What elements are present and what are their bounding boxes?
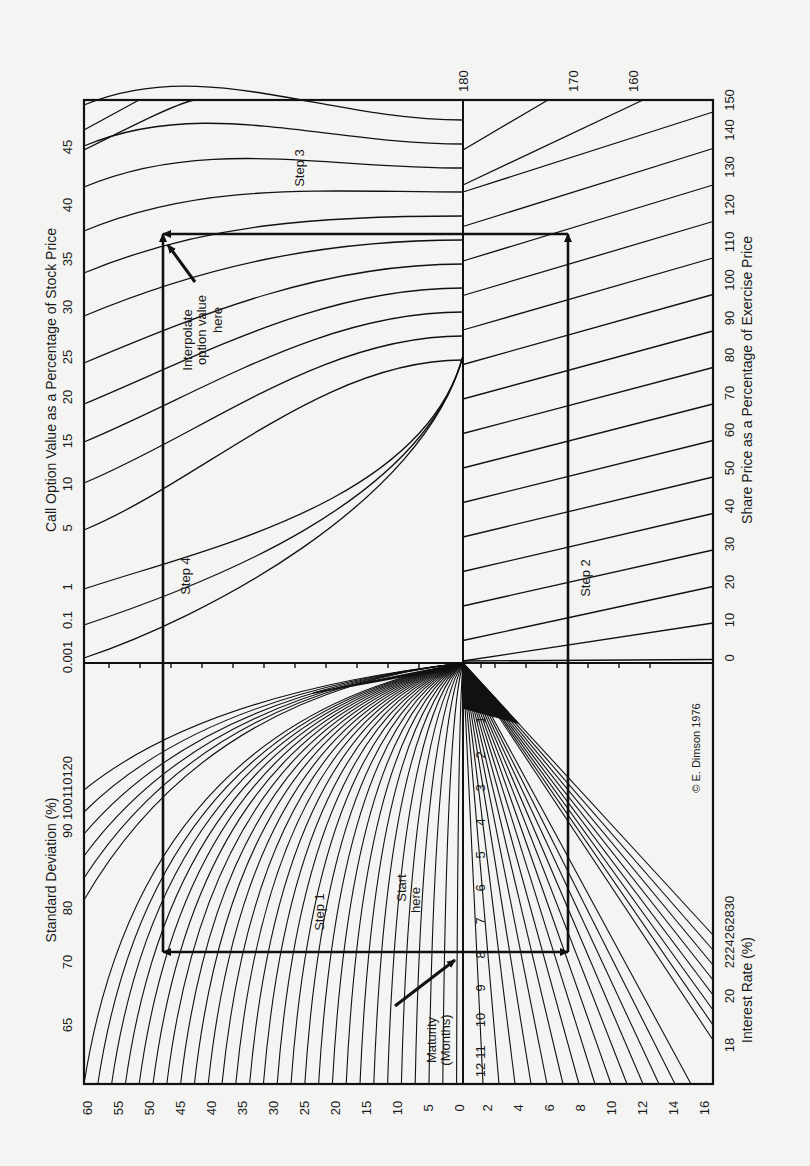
- curve: [463, 441, 713, 503]
- curve: [463, 185, 713, 261]
- share-price-tick: 10: [722, 613, 737, 627]
- curve: [84, 356, 463, 658]
- share-price-top-tick: 170: [566, 70, 581, 92]
- curve: [463, 258, 713, 330]
- share-price-tick: 80: [722, 348, 737, 362]
- call-option-tick: 40: [60, 198, 75, 212]
- start-label: Start: [394, 874, 409, 902]
- curve: [84, 360, 463, 530]
- call-option-tick: 15: [60, 434, 75, 448]
- curve: [84, 240, 463, 316]
- maturity-tick: 4: [473, 818, 488, 825]
- call-option-axis-label: Call Option Value as a Percentage of Sto…: [43, 228, 59, 532]
- curve: [463, 663, 643, 1084]
- step2-label: Step 2: [578, 559, 593, 597]
- start-label: here: [408, 887, 423, 913]
- curve: [84, 86, 463, 120]
- call-option-tick: 1: [60, 583, 75, 590]
- bottom-scale-tick: 40: [204, 1101, 219, 1115]
- sd-axis-label: Standard Deviation (%): [43, 798, 59, 943]
- share-price-tick: 150: [722, 89, 737, 111]
- bottom-scale-tick: 35: [235, 1101, 250, 1115]
- step4-label: Step 4: [178, 557, 193, 595]
- interpolate-label: Interpolate: [180, 309, 195, 370]
- share-price-tick: 20: [722, 575, 737, 589]
- share-price-tick: 90: [722, 311, 737, 325]
- curve: [463, 477, 713, 537]
- curve: [463, 149, 713, 227]
- share-price-tick: 0: [722, 654, 737, 661]
- curve: [84, 264, 463, 363]
- bottom-scale-tick: 2: [480, 1104, 495, 1111]
- bottom-scale-tick: 55: [111, 1101, 126, 1115]
- bottom-scale-tick: 45: [173, 1101, 188, 1115]
- sd-tick: 90 100110120: [60, 756, 75, 838]
- call-option-tick: 10: [60, 477, 75, 491]
- curve: [84, 216, 463, 273]
- bottom-scale-tick: 8: [573, 1104, 588, 1111]
- bottom-scale-tick: 12: [635, 1101, 650, 1115]
- bottom-scale-tick: 16: [697, 1101, 712, 1115]
- curve: [84, 123, 463, 146]
- share-price-tick: 120: [722, 194, 737, 216]
- share-price-top-tick: 160: [626, 70, 641, 92]
- curve: [463, 222, 713, 296]
- bottom-scale-tick: 25: [297, 1101, 312, 1115]
- maturity-tick: 3: [473, 784, 488, 791]
- maturity-tick: 12: [473, 1063, 488, 1077]
- maturity-tick: 6: [473, 884, 488, 891]
- bottom-scale-tick: 30: [266, 1101, 281, 1115]
- curve: [139, 663, 463, 1084]
- share-price-tick: 140: [722, 119, 737, 141]
- maturity-tick: 7: [473, 917, 488, 924]
- call-option-tick: 5: [60, 524, 75, 531]
- curve: [84, 336, 463, 483]
- curve: [167, 663, 463, 1084]
- share-price-tick: 50: [722, 461, 737, 475]
- sd-tick: 65: [60, 1018, 75, 1032]
- share-price-tick: 60: [722, 423, 737, 437]
- maturity-tick: 5: [473, 851, 488, 858]
- curve: [463, 100, 548, 150]
- share-price-axis-label: Share Price as a Percentage of Exercise …: [739, 236, 755, 524]
- bottom-scale-tick: 6: [542, 1104, 557, 1111]
- curve: [84, 159, 463, 187]
- bottom-scale-tick: 20: [328, 1101, 343, 1115]
- curve: [84, 356, 463, 625]
- interest-tick: 2224262830: [722, 896, 737, 968]
- curve: [463, 660, 713, 662]
- curve: [84, 100, 139, 130]
- interpolate-label: here: [210, 307, 225, 333]
- share-price-tick: 70: [722, 386, 737, 400]
- share-price-tick: 40: [722, 499, 737, 513]
- curve: [98, 663, 463, 1084]
- call-option-tick: 35: [60, 252, 75, 266]
- curve: [84, 663, 463, 1084]
- share-price-tick: 130: [722, 156, 737, 178]
- call-option-tick: 20: [60, 390, 75, 404]
- share-price-tick: 30: [722, 537, 737, 551]
- call-option-tick: 0.001: [60, 641, 75, 674]
- step3-label: Step 3: [292, 149, 307, 187]
- call-option-tick: 0.1: [60, 611, 75, 629]
- share-price-top-tick: 180: [456, 70, 471, 92]
- curve: [181, 663, 463, 1084]
- interpolate-label: option value: [194, 295, 209, 365]
- curve: [463, 404, 713, 468]
- sd-tick: 70: [60, 955, 75, 969]
- curve: [463, 112, 713, 192]
- curve: [463, 623, 713, 661]
- call-option-tick: 25: [60, 350, 75, 364]
- bottom-scale-tick: 10: [390, 1101, 405, 1115]
- bottom-scale-tick: 60: [80, 1101, 95, 1115]
- interest-axis-label: Interest Rate (%): [739, 937, 755, 1043]
- interest-tick: 18: [722, 1038, 737, 1052]
- bottom-scale-tick: 10: [604, 1101, 619, 1115]
- maturity-tick: 8: [473, 951, 488, 958]
- sd-tick: 80: [60, 901, 75, 915]
- curve: [463, 295, 713, 365]
- example-path: [163, 234, 568, 1006]
- option-nomogram: 0.0010.1151015202530354045Call Option Va…: [0, 0, 810, 1166]
- step1-label: Step 1: [312, 893, 327, 931]
- maturity-tick: 2: [473, 751, 488, 758]
